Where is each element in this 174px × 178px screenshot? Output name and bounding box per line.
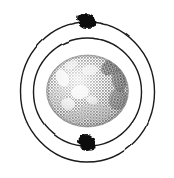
- particle-bottom-lobe-right: [87, 142, 96, 151]
- figure-container: Halftone illustration of a grey textured…: [0, 0, 174, 178]
- atom-diagram: [0, 0, 174, 178]
- particle-top-lobe-right: [87, 18, 98, 28]
- particle-top-lobe-left: [77, 14, 87, 24]
- particle-bottom-lobe-left: [78, 135, 88, 145]
